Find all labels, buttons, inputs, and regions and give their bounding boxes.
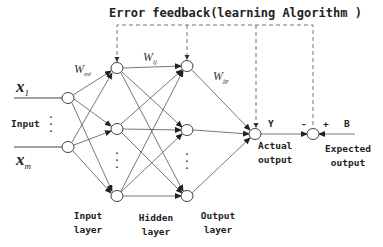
expected-b-label: B — [344, 119, 350, 129]
weight-w-ij: Wij — [143, 51, 157, 66]
edges-output-final — [192, 70, 355, 193]
hidden-node-2 — [111, 124, 123, 135]
minus-sign: - — [301, 119, 307, 129]
comparator-node — [307, 129, 319, 140]
input-node-m — [62, 142, 74, 153]
plus-sign: + — [323, 119, 329, 129]
nodes — [62, 61, 319, 202]
hidden-node-n — [111, 191, 123, 202]
output-node-n — [181, 191, 193, 202]
expected-output-label: Expectedoutput — [318, 142, 378, 170]
input-x1-label: x1 — [16, 78, 29, 98]
hidden-layer-label: Hiddenlayer — [134, 211, 178, 239]
input-ellipsis: ··· — [47, 114, 55, 135]
input-layer-label: Inputlayer — [66, 209, 110, 237]
hidden-ellipsis: ··· — [113, 150, 121, 171]
actual-output-label: Actualoutput — [258, 139, 292, 167]
hidden-node-1 — [111, 63, 123, 74]
actual-output-y-label: Y — [268, 119, 274, 129]
input-node-1 — [62, 93, 74, 104]
diagram-title: Error feedback(learning Algorithm ) — [109, 7, 362, 19]
output-ellipsis: ··· — [183, 151, 191, 172]
actual-output-node — [249, 129, 261, 140]
edges-input-hidden — [72, 71, 112, 193]
edges-hidden-output — [121, 66, 183, 196]
output-node-2 — [181, 125, 193, 136]
weight-w-jp: Wjp — [213, 70, 228, 85]
weight-w-mi: Wmi — [74, 63, 91, 78]
input-xm-label: xm — [16, 151, 31, 171]
output-node-1 — [181, 61, 193, 72]
input-label: Input — [11, 119, 40, 129]
neural-network-diagram: Error feedback(learning Algorithm ) x1 I… — [0, 0, 383, 247]
output-layer-label: Outputlayer — [196, 209, 240, 237]
